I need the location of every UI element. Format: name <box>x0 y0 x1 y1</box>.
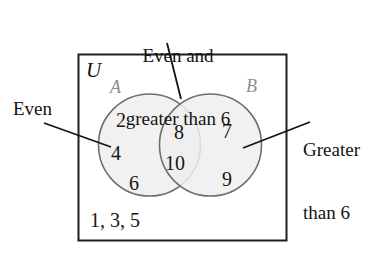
element-9: 9 <box>222 168 232 190</box>
callout-even-label: Even <box>13 98 52 119</box>
universal-set-label: U <box>86 59 101 83</box>
element-2: 2 <box>116 109 126 131</box>
callout-greater-line2: than 6 <box>303 202 360 223</box>
element-10: 10 <box>165 152 185 174</box>
set-b-label: B <box>246 76 257 96</box>
callout-greater-line1: Greater <box>303 139 360 160</box>
element-8: 8 <box>174 121 184 143</box>
outside-elements-label: 1, 3, 5 <box>90 209 140 231</box>
element-4: 4 <box>111 142 121 164</box>
venn-diagram-figure: Even and greater than 6 Even Greater tha… <box>0 0 386 266</box>
element-6: 6 <box>129 172 139 194</box>
element-7: 7 <box>222 120 232 142</box>
callout-intersection-label: Even and greater than 6 <box>108 2 248 172</box>
set-a-label: A <box>110 77 121 97</box>
callout-intersection-line1: Even and <box>108 45 248 66</box>
callout-greater-than-6-label: Greater than 6 <box>303 96 360 266</box>
